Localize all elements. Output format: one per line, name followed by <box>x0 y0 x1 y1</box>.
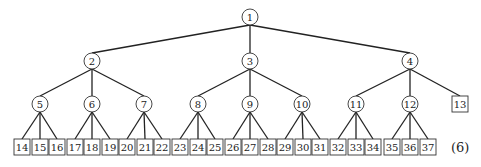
leaf-node-15: 15 <box>32 139 48 155</box>
edge-7-20 <box>127 112 144 139</box>
edge-4-11 <box>356 69 410 96</box>
edge-3-10 <box>250 69 302 96</box>
edge-7-21 <box>144 112 145 139</box>
node-label: 11 <box>350 99 363 110</box>
node-label: 5 <box>37 99 43 110</box>
internal-node-6: 6 <box>84 96 100 112</box>
leaf-node-17: 17 <box>67 139 83 155</box>
internal-node-5: 5 <box>32 96 48 112</box>
leaf-node-36: 36 <box>402 139 418 155</box>
edge-2-5 <box>40 69 92 96</box>
leaf-node-32: 32 <box>330 139 346 155</box>
node-label: 1 <box>247 12 253 23</box>
node-label: 13 <box>454 99 467 110</box>
node-label: 28 <box>262 142 275 153</box>
node-label: 8 <box>195 99 201 110</box>
node-label: 25 <box>209 142 222 153</box>
edge-9-26 <box>233 112 250 139</box>
node-label: 15 <box>34 142 47 153</box>
edge-1-4 <box>250 25 410 53</box>
node-label: 3 <box>247 56 253 67</box>
edge-8-25 <box>198 112 215 139</box>
node-label: 23 <box>174 142 187 153</box>
node-label: 35 <box>386 142 399 153</box>
internal-node-7: 7 <box>136 96 152 112</box>
leaf-node-21: 21 <box>137 139 153 155</box>
leaf-node-35: 35 <box>384 139 400 155</box>
edge-10-29 <box>285 112 302 139</box>
internal-node-11: 11 <box>348 96 364 112</box>
equation-label: (6) <box>451 140 469 155</box>
node-label: 21 <box>139 142 152 153</box>
leaf-node-23: 23 <box>172 139 188 155</box>
node-label: 37 <box>422 142 435 153</box>
edge-11-34 <box>356 112 373 139</box>
edge-6-17 <box>75 112 92 139</box>
leaf-node-20: 20 <box>119 139 135 155</box>
edge-5-16 <box>40 112 57 139</box>
edge-10-30 <box>302 112 303 139</box>
edge-8-23 <box>180 112 198 139</box>
node-label: 9 <box>247 99 253 110</box>
node-label: 2 <box>89 56 95 67</box>
node-label: 19 <box>104 142 117 153</box>
node-label: 14 <box>16 142 29 153</box>
leaf-node-22: 22 <box>154 139 170 155</box>
edge-11-32 <box>338 112 356 139</box>
tree-nodes: 1234567891011121314151617181920212223242… <box>14 9 468 155</box>
tree-diagram: 1234567891011121314151617181920212223242… <box>0 0 481 167</box>
edge-7-22 <box>144 112 162 139</box>
leaf-node-28: 28 <box>260 139 276 155</box>
leaf-node-14: 14 <box>14 139 30 155</box>
leaf-node-25: 25 <box>207 139 223 155</box>
node-label: 31 <box>314 142 327 153</box>
edge-3-8 <box>198 69 250 96</box>
leaf-node-24: 24 <box>190 139 206 155</box>
internal-node-12: 12 <box>402 96 418 112</box>
leaf-node-27: 27 <box>242 139 258 155</box>
internal-node-8: 8 <box>190 96 206 112</box>
node-label: 32 <box>332 142 345 153</box>
node-label: 34 <box>367 142 380 153</box>
leaf-node-37: 37 <box>420 139 436 155</box>
edge-5-14 <box>22 112 40 139</box>
node-label: 10 <box>296 99 309 110</box>
node-label: 18 <box>86 142 99 153</box>
edge-4-13 <box>410 69 460 96</box>
edge-12-35 <box>392 112 410 139</box>
internal-node-9: 9 <box>242 96 258 112</box>
edge-10-31 <box>302 112 320 139</box>
leaf-node-29: 29 <box>277 139 293 155</box>
leaf-node-18: 18 <box>84 139 100 155</box>
node-label: 24 <box>192 142 205 153</box>
edge-12-37 <box>410 112 428 139</box>
node-label: 36 <box>404 142 417 153</box>
internal-node-3: 3 <box>242 53 258 69</box>
node-label: 30 <box>297 142 310 153</box>
leaf-node-19: 19 <box>102 139 118 155</box>
leaf-node-30: 30 <box>295 139 311 155</box>
node-label: 6 <box>89 99 95 110</box>
tree-edges <box>22 25 460 139</box>
leaf-node-26: 26 <box>225 139 241 155</box>
leaf-node-16: 16 <box>49 139 65 155</box>
node-label: 22 <box>156 142 169 153</box>
internal-node-10: 10 <box>294 96 310 112</box>
leaf-node-31: 31 <box>312 139 328 155</box>
internal-node-1: 1 <box>242 9 258 25</box>
edge-9-28 <box>250 112 268 139</box>
leaf-node-33: 33 <box>348 139 364 155</box>
edge-2-7 <box>92 69 144 96</box>
internal-node-4: 4 <box>402 53 418 69</box>
node-label: 27 <box>244 142 257 153</box>
node-label: 7 <box>141 99 147 110</box>
node-label: 17 <box>69 142 82 153</box>
leaf-node-13: 13 <box>452 96 468 112</box>
node-label: 16 <box>51 142 64 153</box>
node-label: 33 <box>350 142 363 153</box>
node-label: 29 <box>279 142 292 153</box>
node-label: 12 <box>404 99 417 110</box>
edge-1-2 <box>92 25 250 53</box>
internal-node-2: 2 <box>84 53 100 69</box>
node-label: 4 <box>407 56 413 67</box>
